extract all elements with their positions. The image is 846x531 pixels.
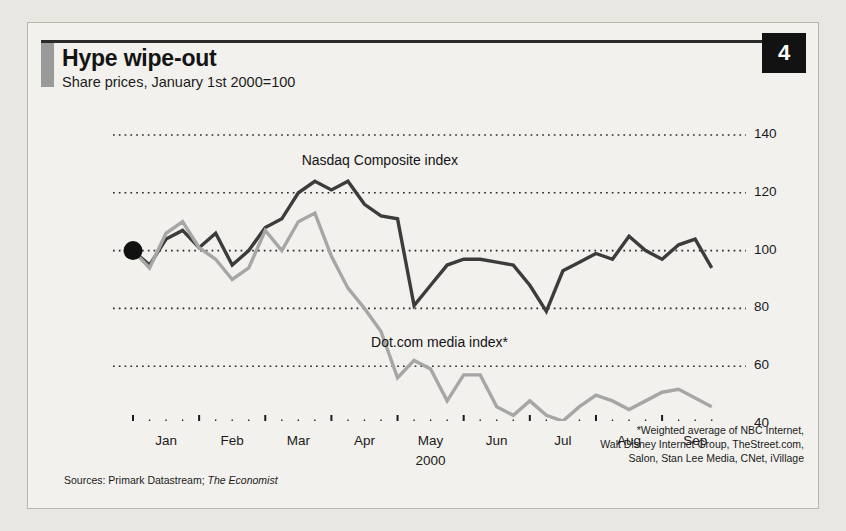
y-axis-tick-label: 60	[754, 357, 769, 372]
y-axis-tick-label: 100	[754, 242, 777, 257]
title-tab-marker	[41, 43, 54, 87]
x-axis-tick-label: Jun	[486, 433, 508, 448]
x-axis-tick-label: Apr	[354, 433, 375, 448]
figure-number: 4	[778, 42, 790, 64]
page-title: Hype wipe-out	[62, 45, 217, 72]
x-axis-tick-label: Jan	[155, 433, 177, 448]
title-rule	[41, 40, 801, 43]
x-axis-year-label: 2000	[416, 453, 446, 468]
sources-line: Sources: Primark Datastream; The Economi…	[64, 474, 278, 486]
start-point-marker	[124, 241, 143, 260]
sources-publication: The Economist	[208, 474, 278, 486]
chart-subtitle: Share prices, January 1st 2000=100	[62, 74, 295, 90]
chart-svg	[106, 91, 746, 421]
plot-area	[106, 91, 746, 421]
y-axis-tick-label: 140	[754, 126, 777, 141]
y-axis-tick-label: 80	[754, 299, 769, 314]
series-annotation-label: Nasdaq Composite index	[302, 152, 458, 168]
y-axis-tick-label: 120	[754, 184, 777, 199]
x-axis-tick-label: Mar	[287, 433, 310, 448]
footnote-line: *Weighted average of NBC Internet,	[600, 424, 804, 438]
series-line-nasdaq	[133, 181, 712, 311]
footnote-line: Salon, Stan Lee Media, CNet, iVillage	[600, 452, 804, 466]
footnote-line: Walt Disney Internet Group, TheStreet.co…	[600, 438, 804, 452]
footnote: *Weighted average of NBC Internet,Walt D…	[600, 424, 804, 466]
figure-number-badge: 4	[762, 33, 806, 73]
chart-figure: Hype wipe-out Share prices, January 1st …	[27, 22, 819, 509]
sources-prefix: Sources: Primark Datastream;	[64, 474, 208, 486]
series-annotation-label: Dot.com media index*	[371, 334, 508, 350]
x-axis-tick-label: May	[418, 433, 444, 448]
chart-inner: Hype wipe-out Share prices, January 1st …	[28, 23, 818, 508]
x-axis-tick-label: Feb	[221, 433, 244, 448]
x-axis-tick-label: Jul	[554, 433, 571, 448]
